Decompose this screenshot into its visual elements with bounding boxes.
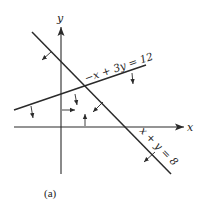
- arrow-icon: [93, 102, 103, 112]
- line-neg-x-plus-3y-12: [14, 65, 146, 110]
- arrow-icon: [31, 106, 33, 118]
- y-axis-label: y: [56, 12, 64, 25]
- figure-caption: (a): [44, 187, 57, 200]
- x-axis-label: x: [187, 121, 194, 134]
- arrow-icon: [132, 73, 133, 84]
- equation-label-1: −x + 3y = 12: [83, 50, 155, 84]
- arrow-icon: [75, 94, 77, 105]
- feasible-region-diagram: x y −x + 3y = 12 x + y = 8 (a): [0, 0, 203, 207]
- arrow-icon: [42, 52, 51, 60]
